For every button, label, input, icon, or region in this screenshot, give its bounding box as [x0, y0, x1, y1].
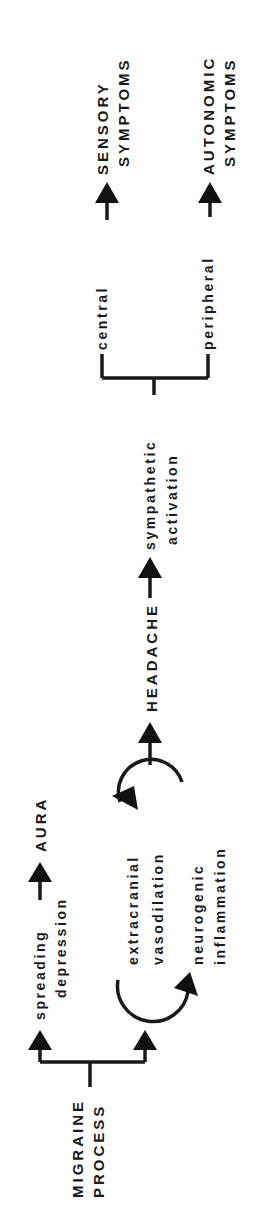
node-sympathetic-activation: sympathetic activation [142, 440, 180, 550]
cycle-arrow-right [112, 759, 182, 810]
arrowhead-icon [198, 182, 222, 203]
arrowhead-icon [133, 1030, 157, 1050]
migraine-process-line2: PROCESS [90, 1104, 107, 1198]
cycle-arrow-left [117, 972, 198, 1022]
neurogenic-inflammation-line2: inflammation [212, 847, 228, 965]
node-sensory-symptoms: SENSORY SYMPTOMS [94, 57, 132, 175]
sensory-symptoms-line2: SYMPTOMS [115, 57, 132, 167]
fork-sympathetic [102, 354, 208, 395]
arrow-to-sympathetic [138, 557, 162, 598]
sympathetic-activation-line2: activation [164, 454, 180, 545]
autonomic-symptoms-line1: AUTONOMIC [200, 56, 217, 175]
arrowhead-icon [174, 972, 198, 996]
arrowhead-icon [95, 182, 119, 203]
arrowhead-icon [112, 786, 138, 810]
migraine-diagram: MIGRAINE PROCESS spreading depression AU… [0, 0, 253, 1220]
extracranial-vasodilation-line2: vasodilation [150, 852, 166, 965]
node-headache: HEADACHE [143, 603, 160, 712]
migraine-process-line1: MIGRAINE [69, 1099, 86, 1198]
spreading-depression-line1: spreading [32, 930, 48, 1020]
node-spreading-depression: spreading depression [32, 897, 69, 1020]
arrowhead-icon [138, 722, 162, 743]
neurogenic-inflammation-line1: neurogenic [190, 864, 206, 965]
arrow-to-sensory [95, 182, 119, 220]
node-peripheral: peripheral [200, 256, 216, 350]
arrow-to-autonomic [198, 182, 222, 217]
node-migraine-process: MIGRAINE PROCESS [69, 1099, 107, 1198]
arrowhead-icon [28, 1030, 52, 1050]
node-extracranial-vasodilation: extracranial vasodilation [125, 852, 166, 965]
node-autonomic-symptoms: AUTONOMIC SYMPTOMS [200, 56, 238, 175]
node-aura: AURA [32, 797, 49, 852]
autonomic-symptoms-line2: SYMPTOMS [221, 57, 238, 167]
node-neurogenic-inflammation: neurogenic inflammation [190, 847, 228, 965]
arrowhead-icon [28, 862, 52, 882]
arrowhead-icon [138, 557, 162, 578]
arrow-to-aura [28, 862, 52, 900]
sympathetic-activation-line1: sympathetic [142, 440, 158, 550]
fork-migraine [28, 1030, 157, 1087]
sensory-symptoms-line1: SENSORY [94, 81, 111, 175]
spreading-depression-line2: depression [53, 897, 69, 998]
extracranial-vasodilation-line1: extracranial [125, 855, 141, 965]
node-central: central [94, 286, 110, 350]
